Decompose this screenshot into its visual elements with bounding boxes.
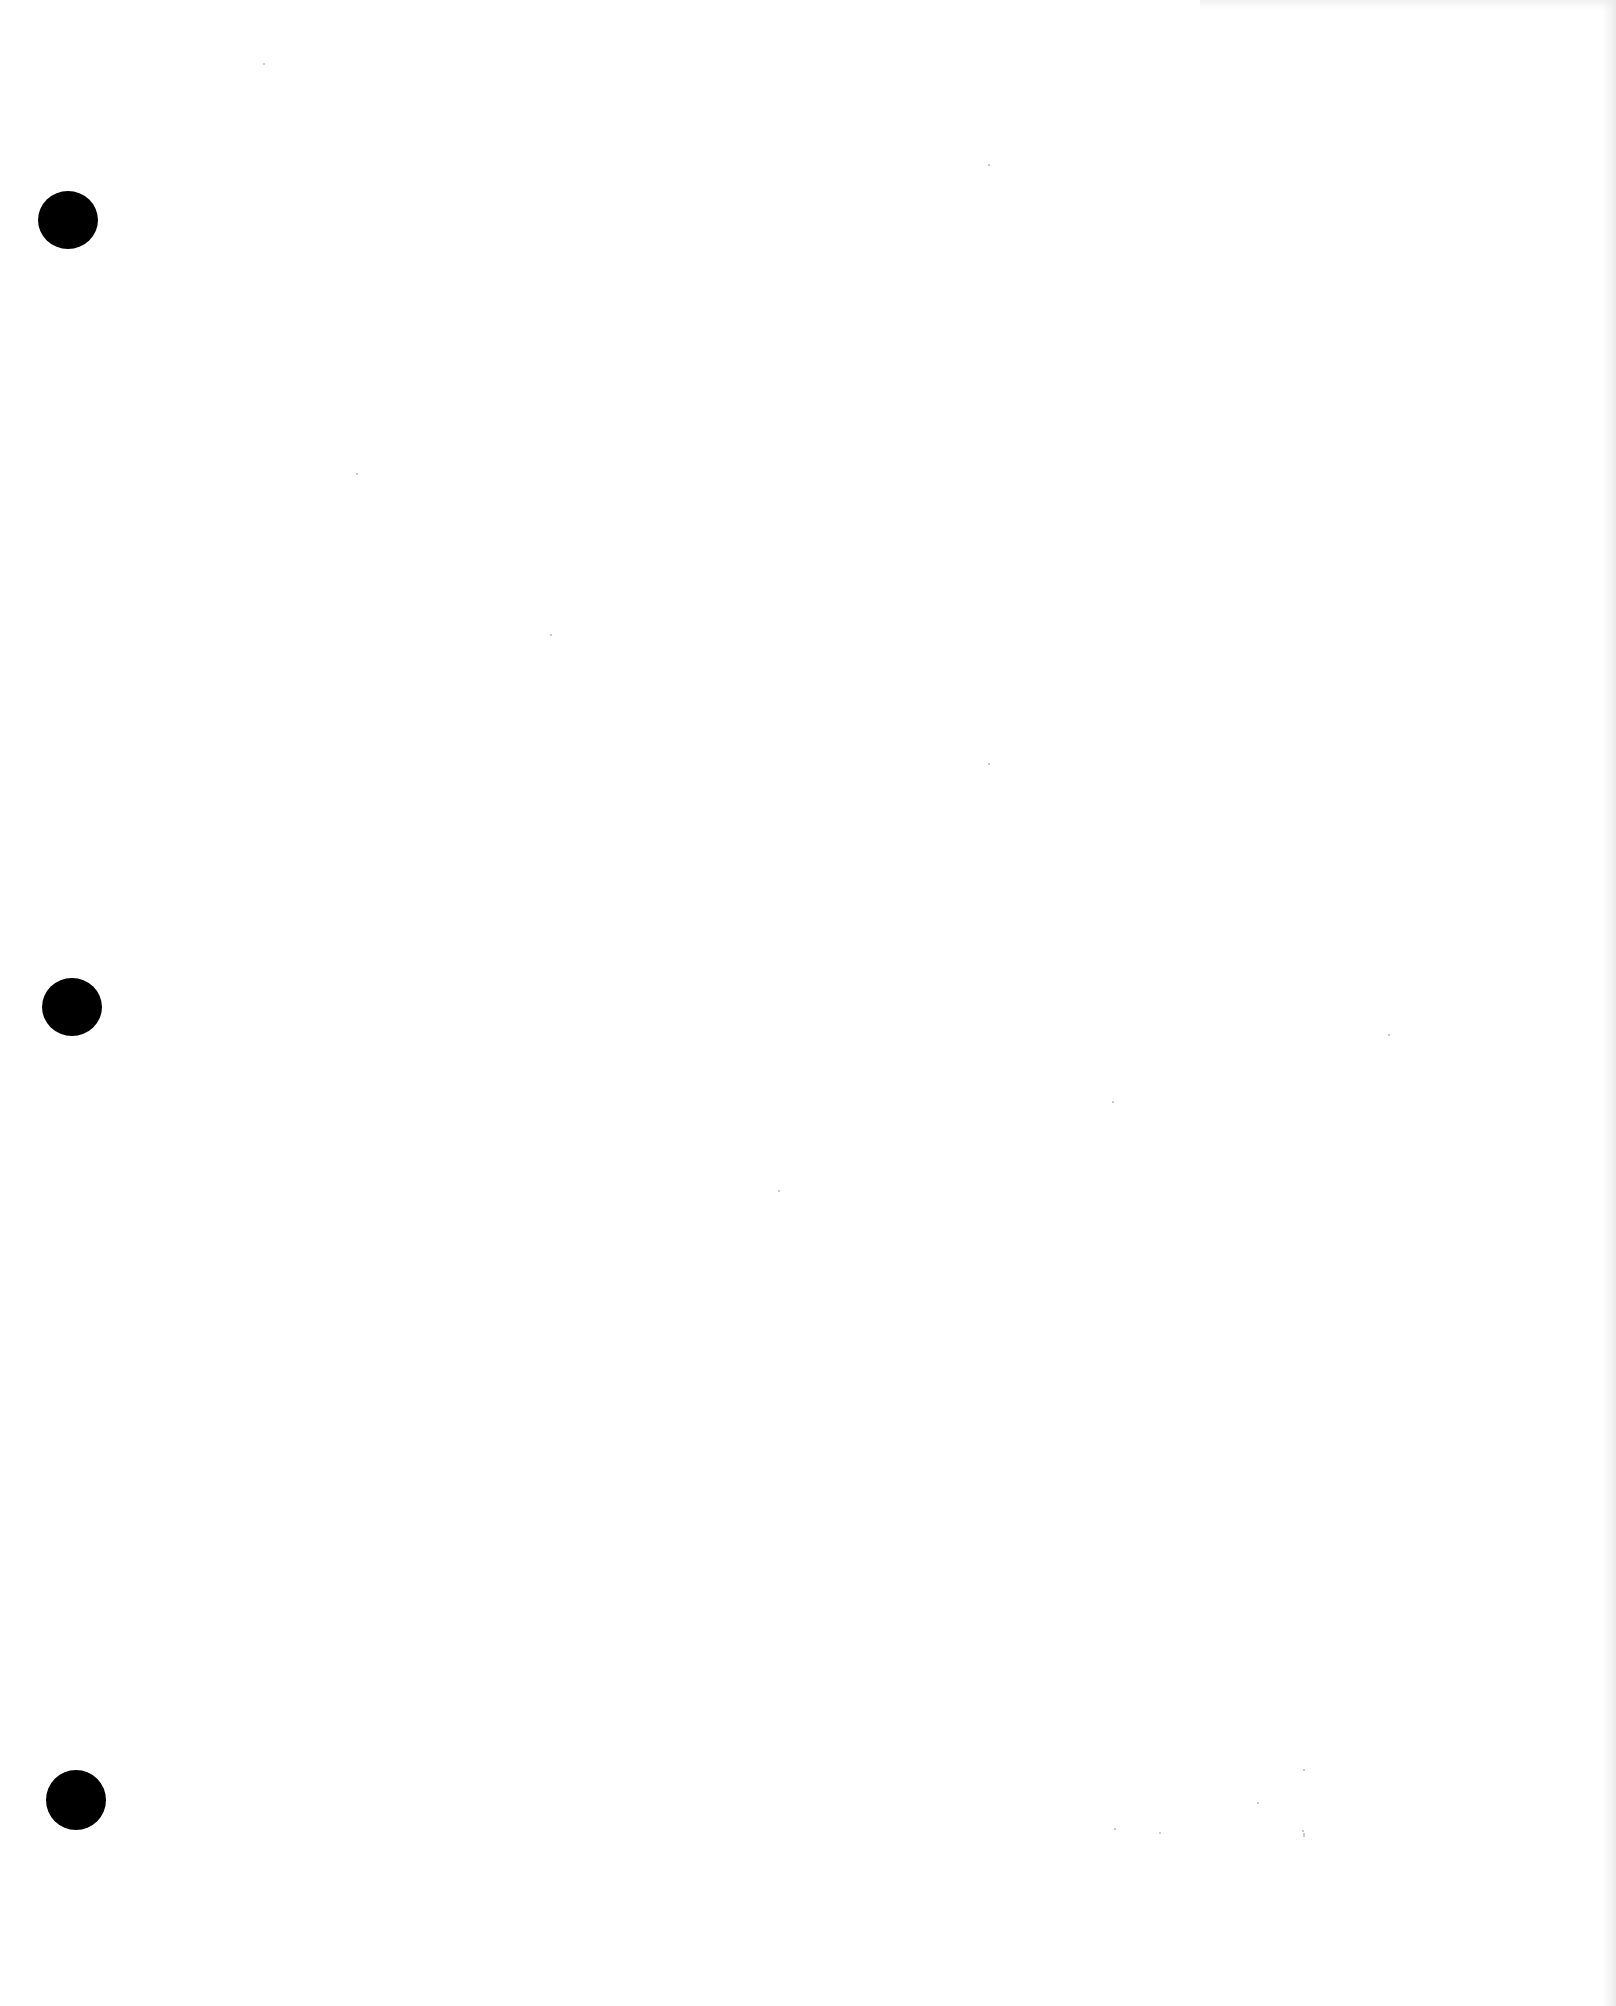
blank-scanned-page bbox=[0, 0, 1616, 2006]
scan-speck bbox=[1303, 1769, 1305, 1771]
scan-speck bbox=[1388, 1034, 1390, 1036]
scan-speck bbox=[1112, 1101, 1114, 1103]
scan-speck bbox=[988, 164, 990, 166]
right-edge-scan-shadow bbox=[1602, 0, 1616, 2006]
scan-speck bbox=[1257, 1802, 1259, 1804]
scan-speck bbox=[988, 763, 990, 765]
scan-speck bbox=[1302, 1830, 1304, 1832]
scan-speck bbox=[356, 473, 358, 475]
scan-speck bbox=[550, 634, 552, 636]
scan-speck bbox=[1159, 1832, 1161, 1834]
scan-speck bbox=[778, 1190, 780, 1192]
punch-hole-top bbox=[38, 191, 98, 249]
scan-speck bbox=[1114, 1828, 1116, 1830]
top-edge-scan-shadow bbox=[1200, 0, 1616, 10]
punch-hole-bottom bbox=[46, 1770, 106, 1830]
scan-speck bbox=[263, 63, 265, 65]
scan-speck bbox=[1303, 1835, 1305, 1837]
punch-hole-middle bbox=[42, 978, 102, 1036]
